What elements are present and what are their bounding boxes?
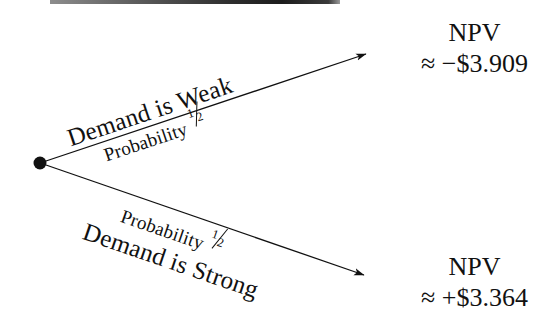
outcome-strong-title: NPV	[392, 252, 557, 283]
decision-tree-diagram: Demand is Weak Probability 12 Probabilit…	[0, 0, 557, 328]
outcome-weak-title: NPV	[392, 18, 557, 49]
outcome-weak: NPV ≈ −$3.909	[392, 18, 557, 79]
outcome-strong-value: ≈ +$3.364	[392, 283, 557, 314]
outcome-strong: NPV ≈ +$3.364	[392, 252, 557, 313]
decision-node	[34, 157, 47, 170]
outcome-weak-value: ≈ −$3.909	[392, 49, 557, 80]
